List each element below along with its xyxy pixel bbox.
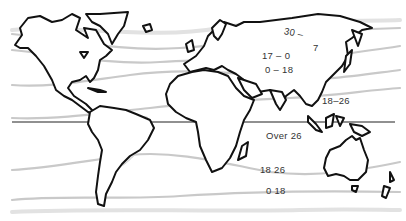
new-guinea xyxy=(350,124,370,136)
south-america xyxy=(88,106,154,206)
continents xyxy=(15,12,394,206)
isotherm-line xyxy=(12,210,400,212)
zone-label-cold: 17 – 0 xyxy=(262,50,290,61)
new-zealand-north xyxy=(390,172,394,182)
indonesia-borneo xyxy=(326,114,334,128)
indonesia-sumatra xyxy=(308,116,322,132)
caribbean-islands xyxy=(88,88,106,92)
philippines xyxy=(336,116,344,126)
zone-label-temperate-north: 0 – 18 xyxy=(265,64,293,75)
australia xyxy=(324,136,368,180)
isotherm-line xyxy=(12,191,400,200)
new-zealand-south xyxy=(382,186,390,198)
world-map xyxy=(0,0,406,221)
madagascar xyxy=(238,142,248,160)
zone-label-arctic-mark: 7 xyxy=(313,42,319,53)
tasmania xyxy=(352,186,358,192)
iceland xyxy=(143,24,152,32)
zone-label-subtropical-north: 18–26 xyxy=(322,95,350,106)
india xyxy=(270,90,286,110)
british-isles xyxy=(186,40,194,52)
zone-label-subtropical-south: 18 26 xyxy=(260,164,285,175)
zone-label-temperate-south: 0 18 xyxy=(266,185,286,196)
zone-label-tropical: Over 26 xyxy=(266,130,302,141)
